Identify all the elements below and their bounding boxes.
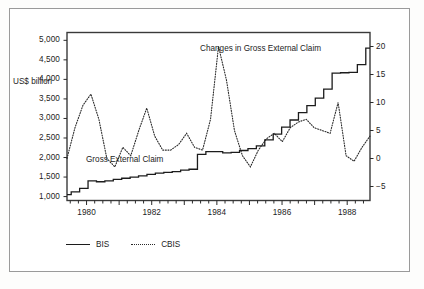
legend-label-bis: BIS: [96, 240, 109, 249]
y-right-tick-label: 20: [376, 42, 406, 51]
y-left-tick-label: 2,500: [20, 133, 60, 142]
legend-item-bis: BIS: [66, 240, 109, 249]
x-tick-label: 1988: [327, 208, 367, 217]
y-left-tick-label: 4,500: [20, 55, 60, 64]
x-tick-label: 1984: [197, 208, 237, 217]
legend-label-cbis: CBIS: [161, 240, 180, 249]
y-left-tick-label: 5,000: [20, 35, 60, 44]
y-left-tick-label: 1,500: [20, 172, 60, 181]
y-right-tick-label: 5: [376, 126, 406, 135]
x-tick-label: 1986: [262, 208, 302, 217]
y-right-tick-label: −5: [376, 182, 406, 191]
x-tick-label: 1982: [132, 208, 172, 217]
y-left-tick-label: 1,000: [20, 192, 60, 201]
chart-figure: US$ billion 5,0004,5004,0003,5003,0002,5…: [0, 0, 424, 289]
annotation-changes-series: Changes in Gross External Claim: [200, 44, 321, 53]
y-right-tick-label: 0: [376, 154, 406, 163]
chart-legend: BIS CBIS: [66, 240, 180, 249]
y-right-tick-label: 15: [376, 70, 406, 79]
y-left-tick-label: 3,000: [20, 113, 60, 122]
legend-item-cbis: CBIS: [131, 240, 180, 249]
legend-swatch-dotted-icon: [131, 244, 155, 245]
y-left-tick-label: 2,000: [20, 153, 60, 162]
x-tick-label: 1980: [67, 208, 107, 217]
annotation-gross-series: Gross External Claim: [86, 155, 163, 164]
y-right-tick-label: 10: [376, 98, 406, 107]
plot-border: [67, 33, 370, 201]
data-series-group: [67, 47, 370, 195]
y-left-tick-label: 4,000: [20, 74, 60, 83]
y-left-tick-label: 3,500: [20, 94, 60, 103]
legend-swatch-solid-icon: [66, 244, 90, 245]
